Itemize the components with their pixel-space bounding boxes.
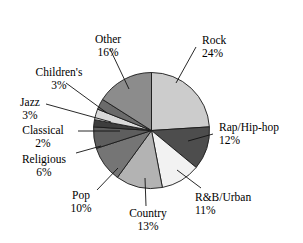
slice-label-rnb-urban-value: 11% [195, 204, 251, 217]
slice-label-pop-name: Pop [62, 189, 100, 202]
slice-label-jazz-value: 3% [14, 109, 46, 122]
pie-slice-rock[interactable] [152, 73, 210, 131]
slice-label-rap-hip-hop: Rap/Hip-hop 12% [219, 121, 279, 146]
slice-label-religious-value: 6% [14, 166, 74, 179]
slice-label-jazz: Jazz 3% [14, 96, 46, 121]
slice-label-rnb-urban-name: R&B/Urban [195, 191, 251, 204]
slice-label-jazz-name: Jazz [14, 96, 46, 109]
slice-label-other: Other 16% [84, 33, 132, 58]
slice-label-classical-value: 2% [12, 137, 74, 150]
slice-label-childrens-name: Children's [26, 66, 92, 79]
pie-chart-page: Rock 24% Rap/Hip-hop 12% R&B/Urban 11% C… [0, 0, 303, 243]
slice-label-classical: Classical 2% [12, 124, 74, 149]
slice-label-pop: Pop 10% [62, 189, 100, 214]
slice-label-rock: Rock 24% [202, 34, 226, 59]
slice-label-rnb-urban: R&B/Urban 11% [195, 191, 251, 216]
slice-label-other-value: 16% [84, 46, 132, 59]
slice-label-other-name: Other [84, 33, 132, 46]
leader-line-pop [97, 168, 118, 190]
slice-label-pop-value: 10% [62, 202, 100, 215]
slice-label-childrens: Children's 3% [26, 66, 92, 91]
leader-line-rock [176, 47, 196, 83]
slice-label-country-value: 13% [120, 220, 176, 233]
slice-label-rock-value: 24% [202, 47, 226, 60]
slice-label-country: Country 13% [120, 207, 176, 232]
pie-slices-group [93, 73, 209, 189]
slice-label-classical-name: Classical [12, 124, 74, 137]
slice-label-rock-name: Rock [202, 34, 226, 47]
slice-label-rap-hip-hop-name: Rap/Hip-hop [219, 121, 279, 134]
slice-label-childrens-value: 3% [26, 79, 92, 92]
slice-label-country-name: Country [120, 207, 176, 220]
slice-label-religious: Religious 6% [14, 153, 74, 178]
slice-label-religious-name: Religious [14, 153, 74, 166]
slice-label-rap-hip-hop-value: 12% [219, 134, 279, 147]
